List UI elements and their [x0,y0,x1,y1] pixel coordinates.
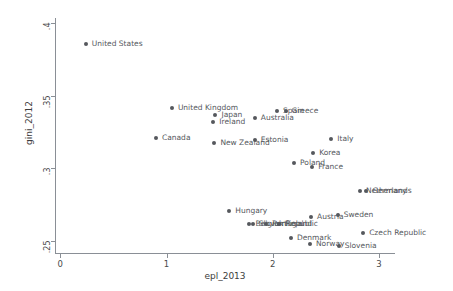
data-point-label: Hungary [235,207,267,215]
data-point [275,109,279,113]
y-tick-label: .4 [44,23,53,31]
data-point [310,165,314,169]
plot-area: gini_2012 epl_2013 .25.3.35.4 0123 Unite… [0,0,453,291]
data-point [227,209,231,213]
x-tick-label: 0 [50,259,70,269]
data-point-label: Ireland [219,118,245,126]
x-tick-label: 1 [157,259,177,269]
data-point-label: Estonia [261,136,289,144]
data-point-label: Slovenia [345,242,377,250]
x-tick-mark [60,254,61,258]
data-point [84,42,88,46]
data-point [211,120,215,124]
x-tick-label: 3 [369,259,389,269]
x-tick-mark [379,254,380,258]
data-point-label: Germany [372,187,406,195]
data-point [311,151,315,155]
x-tick-mark [167,254,168,258]
data-point [253,138,257,142]
data-point [253,116,257,120]
y-tick-label: .25 [44,240,53,253]
data-point [361,231,365,235]
y-tick-label: .35 [44,95,53,108]
data-point-label: France [318,163,343,171]
data-point [213,113,217,117]
data-point [154,136,158,140]
x-tick-label: 2 [263,259,283,269]
data-point [284,109,288,113]
data-point-label: Czech Republic [369,229,426,237]
data-point-label: Australia [261,114,294,122]
data-point [337,244,341,248]
y-axis-line [55,18,56,253]
data-point [308,242,312,246]
scatter-chart: gini_2012 epl_2013 .25.3.35.4 0123 Unite… [0,0,453,291]
x-tick-mark [273,254,274,258]
data-point-label: Sweden [344,211,374,219]
data-point-label: United States [92,40,143,48]
data-point [358,189,362,193]
data-point [170,106,174,110]
data-point [212,141,216,145]
data-point [251,222,255,226]
data-point [329,137,333,141]
data-point [289,236,293,240]
data-point [336,213,340,217]
data-point-label: Greece [292,107,319,115]
data-point-label: Canada [162,134,191,142]
data-point-label: Korea [319,149,340,157]
data-point [292,161,296,165]
data-point-label: Italy [337,135,353,143]
y-tick-label: .3 [44,168,53,176]
x-axis-title: epl_2013 [155,271,295,281]
x-axis-line [55,253,395,254]
data-point-label: Finland [285,220,312,228]
